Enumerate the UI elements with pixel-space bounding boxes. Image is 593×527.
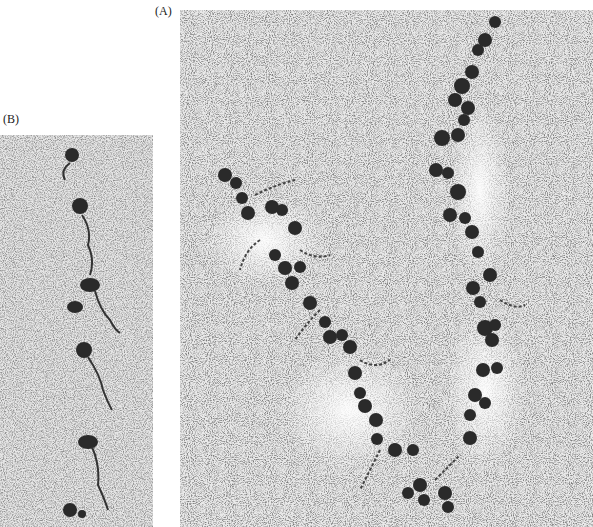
panel-a-micrograph (180, 10, 593, 527)
panel-a-label: (A) (155, 4, 172, 19)
panel-b-micrograph (0, 135, 153, 527)
micrograph-a-image (180, 10, 593, 527)
panel-b-label: (B) (3, 112, 19, 127)
micrograph-b-image (0, 135, 153, 527)
